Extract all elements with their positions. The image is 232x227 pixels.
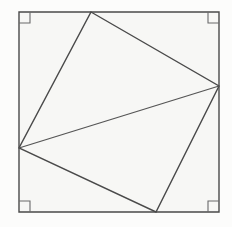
- outer-square: [19, 12, 219, 212]
- figure-canvas: [0, 0, 232, 227]
- geometry-figure: [0, 0, 232, 227]
